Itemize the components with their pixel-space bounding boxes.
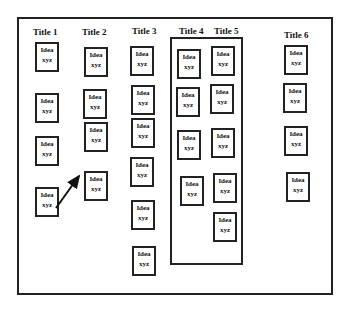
arrow-icon (0, 0, 350, 314)
